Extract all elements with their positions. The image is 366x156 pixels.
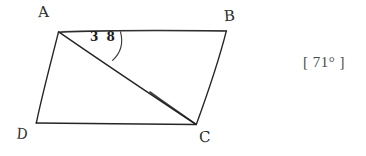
- vertex-label-A: A: [38, 5, 50, 21]
- vertex-label-B: B: [223, 9, 235, 25]
- geometry-figure: [0, 0, 366, 156]
- edge-CD: [36, 123, 196, 125]
- vertex-label-D: D: [16, 127, 28, 143]
- edge-DA: [36, 32, 58, 124]
- vertex-label-C: C: [199, 130, 211, 145]
- edge-BC: [196, 31, 226, 124]
- diagonal-AC-overstroke: [150, 92, 195, 124]
- angle-measure-label: 3 8: [90, 31, 117, 43]
- answer-annotation: [ 71° ]: [303, 54, 345, 71]
